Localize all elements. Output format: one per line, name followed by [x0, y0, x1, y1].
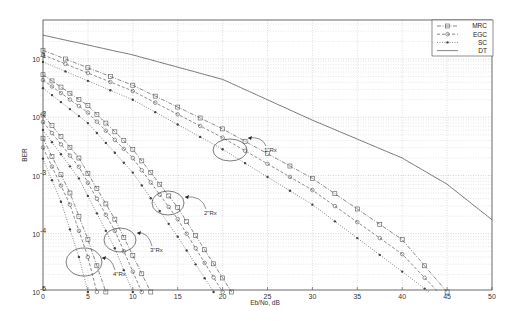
- star-marker-icon: [114, 247, 116, 249]
- star-marker-icon: [199, 136, 201, 138]
- annotation-label: 4"Rx: [113, 271, 126, 277]
- y-tick-label: 10: [32, 114, 40, 121]
- circle-marker-icon: [212, 276, 216, 280]
- star-marker-icon: [69, 228, 71, 230]
- square-marker-icon: [378, 222, 382, 226]
- curve-mrc-1rx: [43, 50, 447, 292]
- star-marker-icon: [109, 89, 111, 91]
- ber-chart: 05101520253035404550 10-110-210-310-410-…: [0, 0, 518, 321]
- circle-marker-icon: [113, 138, 117, 142]
- circle-marker-icon: [95, 290, 99, 294]
- legend-label-sc: SC: [478, 39, 487, 46]
- star-marker-icon: [87, 122, 89, 124]
- legend-label-egc: EGC: [473, 31, 487, 38]
- curve-mrc-2rx: [43, 75, 232, 292]
- y-tick-exponent: -1: [40, 52, 46, 59]
- star-marker-icon: [289, 190, 291, 192]
- x-tick-label: 45: [443, 293, 451, 300]
- y-axis-ticks: 10-110-210-310-410-5: [32, 52, 46, 296]
- circle-marker-icon: [77, 104, 81, 108]
- star-marker-icon: [141, 184, 143, 186]
- y-tick-exponent: -4: [40, 227, 46, 234]
- x-tick-label: 10: [129, 293, 137, 300]
- circle-marker-icon: [243, 149, 247, 153]
- x-tick-label: 15: [174, 293, 182, 300]
- star-marker-icon: [194, 263, 196, 265]
- square-marker-icon: [185, 220, 189, 224]
- circle-marker-icon: [68, 203, 72, 207]
- star-marker-icon: [87, 195, 89, 197]
- rx-annotations: 1"Rx2"Rx3"Rx4"Rx: [66, 136, 277, 277]
- curve-egc-1rx: [43, 55, 438, 292]
- star-marker-icon: [423, 287, 425, 289]
- star-marker-icon: [132, 99, 134, 101]
- circle-marker-icon: [194, 247, 198, 251]
- star-marker-icon: [221, 148, 223, 150]
- x-tick-label: 20: [219, 293, 227, 300]
- star-marker-icon: [60, 101, 62, 103]
- star-marker-icon: [87, 80, 89, 82]
- star-marker-icon: [123, 161, 125, 163]
- y-tick-label: 10: [32, 173, 40, 180]
- y-tick-exponent: -3: [40, 169, 46, 176]
- star-marker-icon: [96, 132, 98, 134]
- circle-marker-icon: [59, 143, 63, 147]
- star-marker-icon: [203, 277, 205, 279]
- x-tick-label: 35: [353, 293, 361, 300]
- y-axis-label: BER: [21, 148, 28, 162]
- star-marker-icon: [185, 249, 187, 251]
- y-tick-label: 10: [32, 231, 40, 238]
- star-marker-icon: [401, 270, 403, 272]
- star-marker-icon: [105, 230, 107, 232]
- y-tick-exponent: -5: [40, 285, 46, 292]
- star-marker-icon: [69, 108, 71, 110]
- arrowhead-icon: [185, 195, 189, 199]
- x-axis-label: Eb/No, dB: [250, 299, 280, 306]
- star-marker-icon: [311, 203, 313, 205]
- star-marker-icon: [266, 176, 268, 178]
- annotation-label: 3"Rx: [150, 247, 163, 253]
- circle-marker-icon: [50, 131, 54, 135]
- circle-marker-icon: [378, 236, 382, 240]
- star-marker-icon: [114, 152, 116, 154]
- star-marker-icon: [132, 171, 134, 173]
- y-tick-label: 10: [32, 289, 40, 296]
- star-marker-icon: [177, 123, 179, 125]
- star-marker-icon: [334, 220, 336, 222]
- star-marker-icon: [168, 223, 170, 225]
- arrowhead-icon: [137, 231, 141, 235]
- y-tick-exponent: -2: [40, 110, 46, 117]
- star-marker-icon: [51, 94, 53, 96]
- circle-marker-icon: [64, 62, 68, 66]
- star-marker-icon: [159, 210, 161, 212]
- circle-marker-icon: [423, 276, 427, 280]
- star-marker-icon: [96, 212, 98, 214]
- annotation-arrow: [102, 258, 115, 270]
- y-tick-label: 10: [32, 56, 40, 63]
- star-marker-icon: [60, 153, 62, 155]
- annotation-ellipse: [152, 191, 184, 215]
- star-marker-icon: [177, 235, 179, 237]
- star-marker-icon: [154, 111, 156, 113]
- x-tick-label: 5: [86, 293, 90, 300]
- star-marker-icon: [105, 142, 107, 144]
- star-marker-icon: [356, 237, 358, 239]
- curve-markers: [41, 48, 449, 294]
- star-marker-icon: [446, 41, 448, 43]
- x-tick-label: 40: [398, 293, 406, 300]
- annotation-ellipse: [66, 248, 102, 276]
- star-marker-icon: [150, 197, 152, 199]
- circle-marker-icon: [95, 120, 99, 124]
- curve-sc-4rx: [43, 159, 88, 292]
- star-marker-icon: [78, 256, 80, 258]
- annotation-label: 1"Rx: [264, 147, 277, 153]
- legend-label-dt: DT: [478, 47, 487, 54]
- annotation-arrow: [137, 233, 152, 246]
- x-tick-label: 0: [41, 293, 45, 300]
- circle-marker-icon: [140, 168, 144, 172]
- legend: MRCEGCSCDT: [432, 20, 493, 56]
- square-marker-icon: [104, 202, 108, 206]
- x-tick-label: 30: [309, 293, 317, 300]
- arrowhead-icon: [102, 256, 106, 260]
- annotation-ellipse: [104, 228, 136, 252]
